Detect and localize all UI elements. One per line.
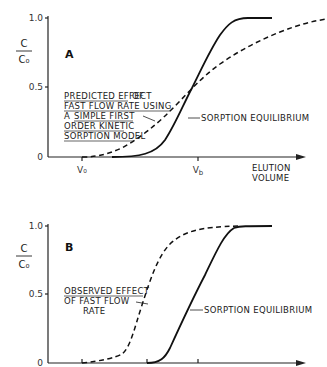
y-label-den-a: C₀: [19, 54, 30, 65]
equilibrium-label-a: SORPTION EQUILIBRIUM: [201, 113, 309, 123]
ytick-1-b: 1.0: [29, 221, 44, 231]
x-axis-arrow-icon: [296, 154, 306, 160]
svg-text:A: A: [64, 111, 70, 121]
panel-label-a: A: [65, 48, 74, 61]
svg-text:RATE: RATE: [83, 306, 105, 316]
svg-text:OF FAST FLOW: OF FAST FLOW: [64, 296, 130, 306]
equilibrium-label-b: SORPTION EQUILIBRIUM: [204, 305, 312, 315]
svg-text:OBSERVED EFFECT: OBSERVED EFFECT: [64, 286, 150, 296]
xlabel-line1: ELUTION: [252, 163, 291, 173]
ytick-0-a: 0: [37, 152, 43, 162]
svg-text:SIMPLE FIRST: SIMPLE FIRST: [74, 111, 135, 121]
xlabel-line2: VOLUME: [252, 173, 289, 183]
ytick-05-a: 0.5: [29, 82, 43, 92]
y-label-num-b: C: [21, 243, 28, 254]
svg-text:FAST FLOW RATE: FAST FLOW RATE: [64, 101, 140, 111]
observed-annotation: OBSERVED EFFECT OF FAST FLOW RATE: [64, 286, 150, 316]
panel-label-b: B: [65, 241, 73, 254]
ytick-0-b: 0: [37, 358, 43, 367]
y-label-num-a: C: [21, 38, 28, 49]
svg-text:OF: OF: [132, 91, 144, 101]
ytick-05-b: 0.5: [29, 289, 43, 299]
svg-text:ORDER KINETIC: ORDER KINETIC: [64, 121, 134, 131]
panel-a: 1.0 0.5 0 C C₀ V₀ Vb ELUTION VOLUME A PR…: [16, 13, 327, 183]
x-axis-arrow-icon: [296, 360, 306, 366]
xtick-v0-a: V₀: [77, 165, 87, 175]
svg-text:SORPTION MODEL: SORPTION MODEL: [64, 131, 145, 141]
panel-b: 1.0 0.5 0 C C₀ B OBSERVED EFFECT OF FAST…: [16, 221, 312, 367]
predicted-annotation: PREDICTED EFFECT OF FAST FLOW RATE USING…: [64, 91, 172, 141]
breakthrough-curves-figure: 1.0 0.5 0 C C₀ V₀ Vb ELUTION VOLUME A PR…: [0, 0, 327, 367]
svg-text:USING: USING: [143, 101, 172, 111]
ytick-1-a: 1.0: [29, 13, 44, 23]
y-label-den-b: C₀: [19, 259, 30, 270]
xtick-vb-a: Vb: [193, 165, 204, 177]
equilibrium-curve-b: [147, 226, 272, 363]
